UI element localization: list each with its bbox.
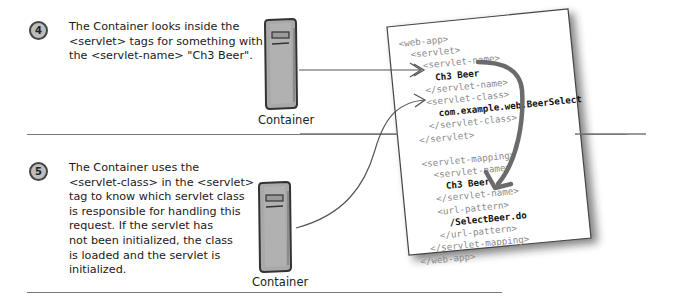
name-match-arrow: [478, 62, 522, 184]
arrows-layer: [0, 0, 673, 297]
class-lookup-arrow: [296, 100, 424, 228]
